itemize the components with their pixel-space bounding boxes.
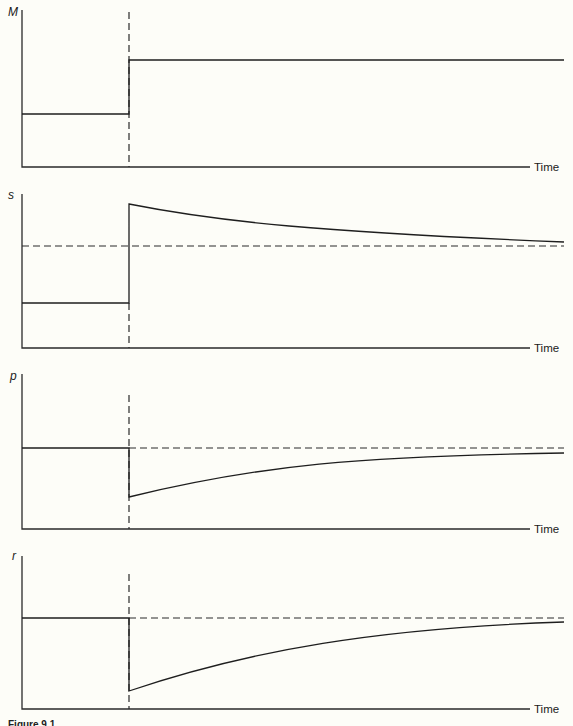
panel-money-supply: M Time xyxy=(8,5,564,173)
y-axis-label-s: s xyxy=(8,188,14,202)
axes xyxy=(22,194,530,348)
y-axis-label-p: p xyxy=(9,369,17,383)
axes xyxy=(22,556,530,709)
series-r xyxy=(22,618,564,691)
panel-exchange-rate: s Time xyxy=(8,188,564,354)
x-axis-label-time: Time xyxy=(534,342,559,354)
axes xyxy=(22,10,530,167)
figure-canvas: M Time s Time p Time r Time xyxy=(0,0,573,726)
x-axis-label-time: Time xyxy=(534,161,559,173)
axes xyxy=(22,374,530,529)
series-p xyxy=(22,448,564,497)
y-axis-label-m: M xyxy=(8,5,18,19)
figure-caption: Figure 9.1 xyxy=(8,718,55,726)
panel-interest-rate: r Time xyxy=(12,549,564,715)
x-axis-label-time: Time xyxy=(534,703,559,715)
series-m xyxy=(22,60,564,114)
y-axis-label-r: r xyxy=(12,549,17,563)
series-s xyxy=(22,204,564,303)
panel-price-level: p Time xyxy=(9,369,564,535)
x-axis-label-time: Time xyxy=(534,523,559,535)
